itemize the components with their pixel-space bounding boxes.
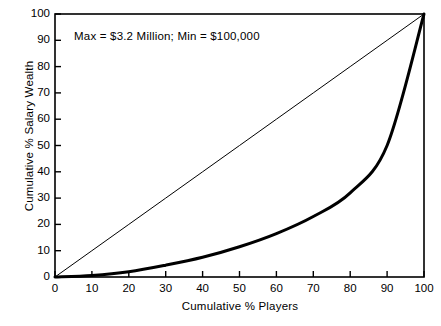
x-tick-label: 40 [183, 283, 223, 295]
x-tick-label: 10 [72, 283, 112, 295]
x-tick-label: 0 [35, 283, 75, 295]
y-tick-label: 0 [20, 271, 50, 283]
x-tick-label: 30 [146, 283, 186, 295]
x-tick-label: 50 [220, 283, 260, 295]
x-tick-label: 20 [109, 283, 149, 295]
x-tick-label: 80 [330, 283, 370, 295]
x-tick-label: 90 [367, 283, 407, 295]
x-tick-label: 60 [256, 283, 296, 295]
x-tick-label: 100 [404, 283, 441, 295]
x-tick-label: 70 [293, 283, 333, 295]
y-axis-ticks [55, 14, 61, 277]
y-axis-title: Cumulative % Salary Wealth [23, 11, 35, 261]
x-axis-title: Cumulative % Players [55, 300, 425, 312]
chart-canvas [0, 0, 441, 326]
chart-annotation: Max = $3.2 Million; Min = $100,000 [74, 30, 260, 42]
lorenz-curve-figure: 0102030405060708090100 01020304050607080… [0, 0, 441, 326]
equality-line [55, 14, 424, 277]
